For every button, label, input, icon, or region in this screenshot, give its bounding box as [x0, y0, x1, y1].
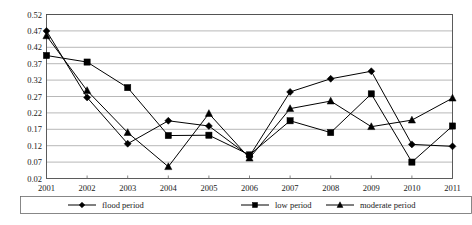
- chart-canvas: 0.020.070.120.170.220.270.320.370.420.47…: [0, 0, 472, 225]
- square-marker: [43, 52, 49, 58]
- diamond-marker: [205, 123, 212, 130]
- legend-label: flood period: [102, 200, 145, 210]
- legend-label: moderate period: [360, 200, 416, 210]
- data-series-group: [43, 27, 456, 169]
- x-tick-label: 2003: [119, 183, 136, 193]
- square-marker: [409, 159, 415, 165]
- square-marker: [252, 202, 257, 207]
- x-tick-label: 2004: [160, 183, 178, 193]
- diamond-marker: [449, 143, 456, 150]
- x-axis-tick-labels: 2001200220032004200520062007200820092010…: [38, 183, 461, 193]
- x-tick-label: 2010: [403, 183, 420, 193]
- triangle-marker: [327, 97, 334, 104]
- square-marker: [287, 118, 293, 124]
- y-axis-tick-labels: 0.020.070.120.170.220.270.320.370.420.47…: [27, 10, 42, 184]
- chart-legend: flood periodlow periodmoderate period: [21, 197, 472, 214]
- line-chart: 0.020.070.120.170.220.270.320.370.420.47…: [0, 0, 472, 225]
- triangle-marker: [408, 116, 415, 123]
- x-tick-label: 2007: [282, 183, 299, 193]
- y-tick-label: 0.52: [27, 10, 42, 20]
- y-tick-label: 0.47: [27, 26, 42, 36]
- square-marker: [84, 59, 90, 65]
- square-marker: [206, 132, 212, 138]
- y-tick-label: 0.27: [27, 92, 42, 102]
- y-tick-label: 0.17: [27, 124, 42, 134]
- diamond-marker: [408, 141, 415, 148]
- y-tick-label: 0.37: [27, 59, 42, 69]
- square-marker: [449, 123, 455, 129]
- x-tick-label: 2001: [38, 183, 55, 193]
- square-marker: [125, 85, 131, 91]
- square-marker: [368, 91, 374, 97]
- x-tick-label: 2008: [322, 183, 339, 193]
- x-tick-label: 2006: [241, 183, 258, 193]
- x-tick-label: 2002: [79, 183, 96, 193]
- x-tick-label: 2009: [363, 183, 380, 193]
- series-line: [47, 31, 453, 156]
- y-tick-label: 0.22: [27, 108, 42, 118]
- series-line: [47, 36, 453, 167]
- square-marker: [328, 129, 334, 135]
- diamond-marker: [287, 88, 294, 95]
- diamond-marker: [368, 68, 375, 75]
- legend-label: low period: [275, 200, 312, 210]
- y-tick-label: 0.32: [27, 75, 42, 85]
- x-tick-label: 2005: [200, 183, 217, 193]
- series-moderate-period: [43, 32, 456, 170]
- diamond-marker: [327, 75, 334, 82]
- triangle-marker: [449, 94, 456, 101]
- y-tick-label: 0.42: [27, 42, 42, 52]
- y-tick-label: 0.12: [27, 141, 42, 151]
- y-tick-label: 0.07: [27, 157, 42, 167]
- diamond-marker: [165, 117, 172, 124]
- square-marker: [165, 132, 171, 138]
- x-tick-label: 2011: [444, 183, 461, 193]
